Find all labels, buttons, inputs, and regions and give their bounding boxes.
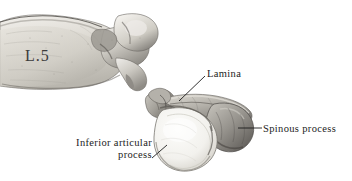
articular-notch [91,29,116,51]
superior-facet-highlight [125,20,147,36]
label-spinous-process: Spinous process [263,123,336,135]
specimen-label-l5: L.5 [25,50,50,62]
label-lamina: Lamina [207,68,241,80]
label-inferior-line1: Inferior articular [76,137,152,148]
upper-vertebra-l5 [0,14,158,91]
label-inferior-line2: process [46,149,152,161]
lower-vertebra-arch [145,88,253,171]
anatomical-figure-plate: L.5 Lamina Spinous process Inferior arti… [0,0,352,181]
label-inferior-articular-process: Inferior articularprocess [46,137,152,160]
